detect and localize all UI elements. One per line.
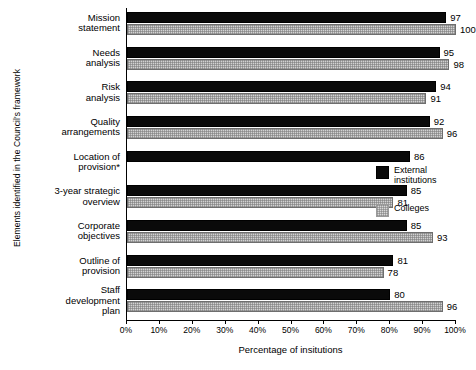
- plot-area: 971009598949192968685818593817880960%10%…: [126, 8, 455, 320]
- category-label-line: analysis: [24, 58, 120, 69]
- legend-item: Colleges: [376, 203, 429, 217]
- bar-value-label: 81: [397, 255, 408, 266]
- bar-value-label: 98: [453, 59, 464, 70]
- bar-value-label: 96: [447, 128, 458, 139]
- category-label-line: analysis: [24, 93, 120, 104]
- category-label-line: overview: [24, 197, 120, 208]
- category-label: Corporateobjectives: [24, 221, 120, 242]
- category-label-line: arrangements: [24, 127, 120, 138]
- x-axis-tick: [323, 320, 324, 324]
- bar-colleges: [127, 59, 449, 70]
- bar-value-label: 95: [444, 47, 455, 58]
- bar-value-label: 100: [460, 24, 476, 35]
- category-label-line: Staff: [24, 285, 120, 296]
- bar-external-institutions: [127, 116, 430, 127]
- category-label: Staffdevelopmentplan: [24, 285, 120, 317]
- category-label: Missionstatement: [24, 13, 120, 34]
- x-axis-tick-label: 0%: [109, 325, 143, 335]
- legend-swatch-colleges: [376, 204, 389, 217]
- bar-value-label: 85: [411, 220, 422, 231]
- x-axis-tick-label: 70%: [339, 325, 373, 335]
- x-axis-tick: [192, 320, 193, 324]
- category-label: Qualityarrangements: [24, 117, 120, 138]
- x-axis-tick-label: 80%: [372, 325, 406, 335]
- bar-colleges: [127, 232, 433, 243]
- category-label-line: provision*: [24, 162, 120, 173]
- x-axis-tick: [225, 320, 226, 324]
- x-axis-tick: [422, 320, 423, 324]
- category-axis: MissionstatementNeedsanalysisRiskanalysi…: [24, 8, 120, 320]
- bar-value-label: 96: [447, 301, 458, 312]
- bar-external-institutions: [127, 289, 390, 300]
- bar-colleges: [127, 93, 426, 104]
- bar-group: 9296: [127, 116, 456, 139]
- bar-external-institutions: [127, 81, 436, 92]
- bar-value-label: 92: [434, 116, 445, 127]
- legend-label: External institutions: [394, 165, 437, 185]
- x-axis-tick-label: 10%: [142, 325, 176, 335]
- x-axis-tick: [455, 320, 456, 324]
- legend-label: Colleges: [394, 203, 429, 213]
- bar-value-label: 85: [411, 185, 422, 196]
- category-label: Needsanalysis: [24, 48, 120, 69]
- bar-value-label: 91: [430, 93, 441, 104]
- bar-external-institutions: [127, 12, 446, 23]
- bar-external-institutions: [127, 47, 440, 58]
- y-axis-title: Elements identified in the Council's fra…: [12, 8, 22, 308]
- x-axis-tick-label: 50%: [274, 325, 308, 335]
- bar-value-label: 78: [388, 267, 399, 278]
- category-label: Location ofprovision*: [24, 152, 120, 173]
- bar-value-label: 86: [414, 151, 425, 162]
- bar-colleges: [127, 24, 456, 35]
- x-axis-tick-label: 40%: [241, 325, 275, 335]
- legend-swatch-external: [376, 166, 389, 179]
- bar-group: 8593: [127, 220, 456, 243]
- bar-external-institutions: [127, 255, 393, 266]
- x-axis-tick-label: 30%: [208, 325, 242, 335]
- x-axis-tick: [356, 320, 357, 324]
- x-axis-tick: [389, 320, 390, 324]
- category-label: 3-year strategicoverview: [24, 186, 120, 207]
- bar-group: 9491: [127, 81, 456, 104]
- category-label-line: statement: [24, 23, 120, 34]
- bar-value-label: 94: [440, 81, 451, 92]
- x-axis-title: Percentage of insitutions: [126, 344, 455, 355]
- bar-external-institutions: [127, 220, 407, 231]
- x-axis-tick: [159, 320, 160, 324]
- category-label-line: plan: [24, 306, 120, 317]
- x-axis-tick: [291, 320, 292, 324]
- bar-colleges: [127, 197, 393, 208]
- bar-group: 97100: [127, 12, 456, 35]
- bar-colleges: [127, 128, 443, 139]
- legend-item: External institutions: [376, 165, 437, 185]
- bar-group: 8178: [127, 255, 456, 278]
- x-axis-tick-label: 20%: [175, 325, 209, 335]
- bar-colleges: [127, 267, 384, 278]
- bar-value-label: 97: [450, 12, 461, 23]
- bar-value-label: 80: [394, 289, 405, 300]
- category-label: Riskanalysis: [24, 82, 120, 103]
- bar-value-label: 93: [437, 232, 448, 243]
- bar-group: 8096: [127, 289, 456, 312]
- category-label-line: provision: [24, 266, 120, 277]
- x-axis-tick-label: 90%: [405, 325, 439, 335]
- category-label: Outline ofprovision: [24, 256, 120, 277]
- bar-external-institutions: [127, 151, 410, 162]
- x-axis-tick-label: 60%: [306, 325, 340, 335]
- bar-colleges: [127, 301, 443, 312]
- bar-group: 9598: [127, 47, 456, 70]
- x-axis-tick: [258, 320, 259, 324]
- bar-external-institutions: [127, 185, 407, 196]
- x-axis-tick: [126, 320, 127, 324]
- category-label-line: objectives: [24, 231, 120, 242]
- x-axis-tick-label: 100%: [438, 325, 472, 335]
